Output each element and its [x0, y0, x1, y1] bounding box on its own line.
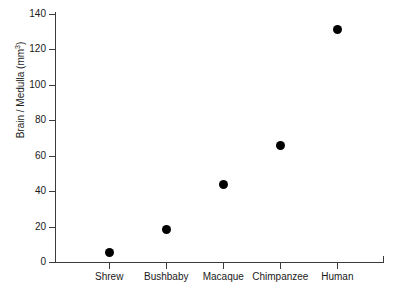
y-axis-tick-label: 20: [6, 222, 46, 232]
y-axis-tick: [49, 191, 55, 192]
x-axis-tick: [109, 263, 110, 269]
y-axis-tick: [49, 85, 55, 86]
y-axis-tick: [49, 120, 55, 121]
y-axis-title: Brain / Medulla (mm3): [14, 0, 28, 214]
x-axis-tick: [223, 263, 224, 269]
x-axis-tick-label: Human: [321, 271, 353, 282]
x-axis-tick: [280, 263, 281, 269]
data-point: [219, 180, 228, 189]
x-axis-tick: [166, 263, 167, 269]
y-axis-tick: [49, 49, 55, 50]
y-axis-tick-label: 120: [6, 44, 46, 54]
x-axis-tick: [337, 263, 338, 269]
y-axis-tick: [49, 14, 55, 15]
x-axis-end-cap: [383, 256, 384, 263]
data-point: [333, 25, 342, 34]
x-axis-tick-label: Bushbaby: [144, 271, 188, 282]
y-axis-tick-label: 100: [6, 80, 46, 90]
y-axis-tick-label: 60: [6, 151, 46, 161]
data-point: [105, 248, 114, 257]
data-point: [162, 225, 171, 234]
y-axis-tick: [49, 262, 55, 263]
y-axis-tick-label: 0: [6, 257, 46, 267]
x-axis-tick-label: Chimpanzee: [252, 271, 308, 282]
y-axis-tick: [49, 156, 55, 157]
y-axis-tick-label: 40: [6, 186, 46, 196]
y-axis-tick-label: 80: [6, 115, 46, 125]
y-axis-tick: [49, 227, 55, 228]
scatter-chart-figure: Brain / Medulla (mm3) 020406080100120140…: [0, 0, 400, 286]
x-axis-spine: [55, 262, 384, 263]
x-axis-tick-label: Macaque: [203, 271, 244, 282]
data-point: [276, 141, 285, 150]
y-axis-spine: [55, 12, 56, 263]
y-axis-tick-label: 140: [6, 9, 46, 19]
x-axis-tick-label: Shrew: [95, 271, 123, 282]
